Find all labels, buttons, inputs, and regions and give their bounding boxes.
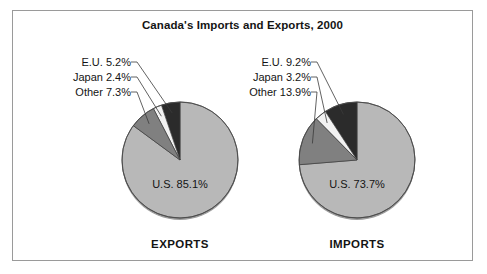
callout-exports-eu: E.U. 5.2% <box>31 55 131 70</box>
callout-imports-other: Other 13.9% <box>206 85 311 100</box>
callout-exports-other: Other 7.3% <box>31 85 131 100</box>
callout-exports-japan: Japan 2.4% <box>31 70 131 85</box>
callout-group-imports: E.U. 9.2% Japan 3.2% Other 13.9% <box>206 55 311 100</box>
callout-group-exports: E.U. 5.2% Japan 2.4% Other 7.3% <box>31 55 131 100</box>
callout-imports-japan: Japan 3.2% <box>206 70 311 85</box>
pie-slices-layer <box>0 0 487 274</box>
slice-label-exports-us: U.S. 85.1% <box>120 178 240 190</box>
chart-caption-imports: IMPORTS <box>297 238 417 250</box>
callout-imports-eu: E.U. 9.2% <box>206 55 311 70</box>
slice-label-imports-us: U.S. 73.7% <box>297 178 417 190</box>
chart-caption-exports: EXPORTS <box>120 238 240 250</box>
pie-chart-figure: Canada's Imports and Exports, 2000 E.U. … <box>0 0 487 274</box>
